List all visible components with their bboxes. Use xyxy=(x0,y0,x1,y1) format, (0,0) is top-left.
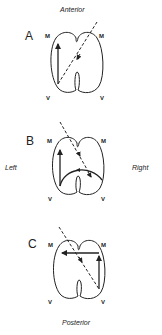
panel-c-heart xyxy=(53,227,104,299)
panel-b-heart xyxy=(52,122,103,195)
panel-b-dashed-axis xyxy=(60,122,92,178)
panel-a-dashed-axis xyxy=(58,22,97,84)
panel-a-heart xyxy=(51,22,103,93)
heart-vector-diagram xyxy=(0,0,162,335)
panel-b-curved-path xyxy=(60,170,102,186)
